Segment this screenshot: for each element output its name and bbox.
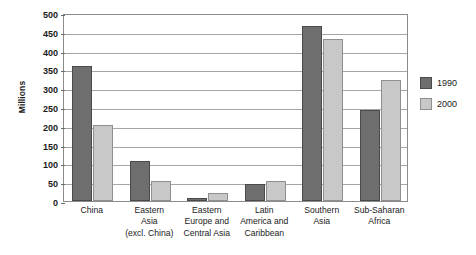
plot-area xyxy=(63,14,408,202)
bar-2000-4 xyxy=(323,39,343,201)
y-axis-tickmark xyxy=(61,203,65,204)
legend-label-2000: 2000 xyxy=(437,99,457,109)
y-axis-tick-label: 250 xyxy=(20,105,58,114)
x-axis-category-labels: ChinaEasternAsia(excl. China)EasternEuro… xyxy=(63,205,408,253)
bar-2000-1 xyxy=(151,181,171,201)
legend-item-1990[interactable]: 1990 xyxy=(420,76,472,89)
y-axis-tick-label: 100 xyxy=(20,161,58,170)
legend-item-2000[interactable]: 2000 xyxy=(420,97,472,110)
bars-layer xyxy=(64,15,407,201)
bar-1990-0 xyxy=(72,66,92,201)
y-axis-tick-label: 400 xyxy=(20,48,58,57)
bar-1990-5 xyxy=(360,110,380,201)
y-axis-tick-label: 500 xyxy=(20,11,58,20)
bar-2000-2 xyxy=(208,193,228,201)
legend-label-1990: 1990 xyxy=(437,78,457,88)
bar-1990-1 xyxy=(130,161,150,201)
bar-1990-4 xyxy=(302,26,322,201)
x-axis-category-label: EasternAsia(excl. China) xyxy=(121,205,179,239)
x-axis-category-label: China xyxy=(63,205,121,216)
x-axis-category-label: Sub-SaharanAfrica xyxy=(351,205,409,228)
legend: 19902000 xyxy=(420,76,472,118)
legend-swatch-1990 xyxy=(420,77,432,89)
x-axis-category-label: EasternEurope andCentral Asia xyxy=(178,205,236,239)
y-axis-tick-label: 0 xyxy=(20,199,58,208)
bar-2000-3 xyxy=(266,181,286,201)
y-axis-tick-label: 200 xyxy=(20,123,58,132)
x-axis-category-label: LatinAmerica andCaribbean xyxy=(236,205,294,239)
y-axis-tick-label: 50 xyxy=(20,180,58,189)
x-axis-category-label: SouthernAsia xyxy=(293,205,351,228)
bar-1990-3 xyxy=(245,184,265,201)
y-axis-tick-label: 150 xyxy=(20,142,58,151)
bar-2000-0 xyxy=(93,125,113,201)
bar-2000-5 xyxy=(381,80,401,201)
bar-1990-2 xyxy=(187,198,207,201)
y-axis-tick-labels: 500450400350300250200150100500 xyxy=(20,14,58,202)
y-axis-tick-label: 300 xyxy=(20,86,58,95)
legend-swatch-2000 xyxy=(420,98,432,110)
y-axis-tick-label: 450 xyxy=(20,29,58,38)
y-axis-tick-label: 350 xyxy=(20,67,58,76)
bar-chart: Millions 500450400350300250200150100500 … xyxy=(0,0,476,255)
